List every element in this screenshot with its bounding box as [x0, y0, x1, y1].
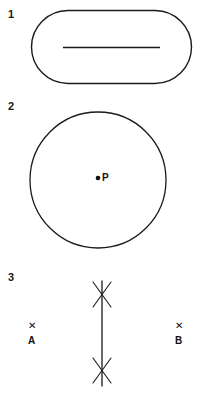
point-a-label: A	[28, 336, 35, 346]
point-a-x-mark: ✕	[28, 321, 36, 331]
worksheet-page: 1 2 P 3	[0, 0, 202, 393]
point-b-x-mark: ✕	[175, 321, 183, 331]
point-b-label: B	[175, 336, 182, 346]
